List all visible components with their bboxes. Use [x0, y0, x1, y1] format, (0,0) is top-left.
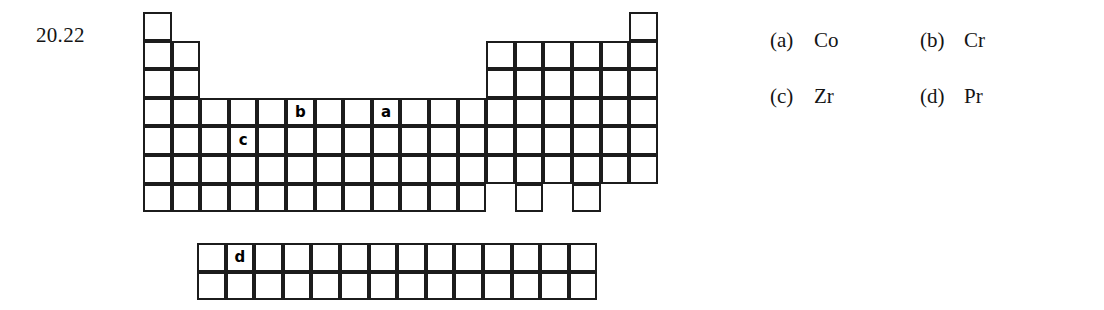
ptable-cell — [512, 243, 541, 272]
ptable-cell — [340, 243, 369, 272]
ptable-cell — [601, 155, 630, 184]
ptable-cell — [515, 155, 544, 184]
ptable-cell — [569, 243, 598, 272]
ptable-cell — [515, 184, 544, 213]
ptable-cell — [572, 155, 601, 184]
ptable-cell — [543, 69, 572, 98]
ptable-cell — [397, 272, 426, 301]
ptable-cell — [372, 126, 401, 155]
ptable-cell — [200, 155, 229, 184]
ptable-cell — [572, 69, 601, 98]
ptable-cell — [397, 243, 426, 272]
ptable-cell — [172, 184, 201, 213]
ptable-cell — [483, 272, 512, 301]
ptable-cell — [200, 98, 229, 127]
ptable-cell-marker-c: c — [229, 126, 258, 155]
ptable-cell — [172, 69, 201, 98]
periodic-table-figure: bacd — [0, 0, 700, 310]
ptable-cell — [512, 272, 541, 301]
ptable-cell — [629, 41, 658, 70]
ptable-cell — [400, 155, 429, 184]
option-b[interactable]: (b)Cr — [920, 28, 1070, 53]
ptable-cell — [343, 184, 372, 213]
ptable-cell — [315, 184, 344, 213]
ptable-cell — [143, 155, 172, 184]
option-row: (c)Zr (d)Pr — [770, 84, 1070, 140]
ptable-cell — [372, 184, 401, 213]
ptable-cell — [143, 12, 172, 41]
ptable-cell — [572, 98, 601, 127]
ptable-cell — [369, 243, 398, 272]
ptable-cell — [543, 98, 572, 127]
ptable-cell — [372, 155, 401, 184]
ptable-cell — [515, 98, 544, 127]
ptable-cell — [601, 69, 630, 98]
ptable-cell — [458, 184, 487, 213]
ptable-cell — [426, 243, 455, 272]
ptable-cell — [197, 272, 226, 301]
ptable-cell — [486, 41, 515, 70]
ptable-cell — [172, 155, 201, 184]
ptable-cell — [486, 126, 515, 155]
ptable-cell — [540, 272, 569, 301]
ptable-cell — [400, 98, 429, 127]
ptable-cell — [343, 98, 372, 127]
ptable-cell — [229, 184, 258, 213]
ptable-cell-marker-b: b — [286, 98, 315, 127]
ptable-cell — [540, 243, 569, 272]
ptable-cell — [172, 41, 201, 70]
ptable-cell — [286, 184, 315, 213]
ptable-cell — [515, 41, 544, 70]
ptable-cell — [569, 272, 598, 301]
ptable-cell — [254, 272, 283, 301]
ptable-cell — [143, 41, 172, 70]
ptable-cell — [286, 126, 315, 155]
ptable-cell — [426, 272, 455, 301]
option-c[interactable]: (c)Zr — [770, 84, 920, 109]
ptable-cell — [257, 98, 286, 127]
ptable-cell — [543, 41, 572, 70]
ptable-cell — [315, 126, 344, 155]
option-b-key: (b) — [920, 28, 954, 53]
ptable-cell — [458, 155, 487, 184]
option-b-value: Cr — [964, 28, 985, 53]
ptable-cell — [543, 155, 572, 184]
ptable-cell — [257, 126, 286, 155]
ptable-cell — [257, 155, 286, 184]
option-a-key: (a) — [770, 28, 804, 53]
ptable-cell — [143, 69, 172, 98]
option-d-value: Pr — [964, 84, 983, 109]
ptable-cell — [311, 243, 340, 272]
ptable-cell — [629, 98, 658, 127]
ptable-cell — [229, 155, 258, 184]
ptable-cell — [629, 155, 658, 184]
ptable-cell — [200, 184, 229, 213]
ptable-cell — [629, 69, 658, 98]
ptable-cell — [369, 272, 398, 301]
ptable-cell — [143, 126, 172, 155]
ptable-cell — [343, 155, 372, 184]
ptable-cell — [311, 272, 340, 301]
ptable-cell — [629, 12, 658, 41]
ptable-cell-marker-a: a — [372, 98, 401, 127]
ptable-cell — [543, 126, 572, 155]
ptable-cell — [486, 98, 515, 127]
ptable-cell — [454, 243, 483, 272]
ptable-cell — [283, 272, 312, 301]
ptable-cell — [429, 184, 458, 213]
ptable-cell — [257, 184, 286, 213]
ptable-cell — [429, 126, 458, 155]
ptable-cell — [515, 126, 544, 155]
ptable-cell — [572, 41, 601, 70]
ptable-cell — [143, 98, 172, 127]
option-d[interactable]: (d)Pr — [920, 84, 1070, 109]
ptable-cell — [400, 126, 429, 155]
ptable-cell — [601, 126, 630, 155]
ptable-cell-marker-d: d — [226, 243, 255, 272]
option-row: (a)Co (b)Cr — [770, 28, 1070, 84]
option-c-value: Zr — [814, 84, 834, 109]
ptable-cell — [226, 272, 255, 301]
option-a[interactable]: (a)Co — [770, 28, 920, 53]
option-c-key: (c) — [770, 84, 804, 109]
ptable-cell — [572, 126, 601, 155]
